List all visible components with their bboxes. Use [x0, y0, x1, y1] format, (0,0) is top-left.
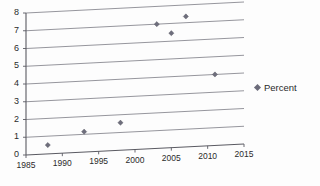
data-point-marker: [183, 14, 188, 19]
axis-tickmarks: [23, 13, 244, 158]
gridline: [26, 20, 244, 31]
legend-label-percent: Percent: [264, 82, 297, 93]
x-axis-tick-label: 1985: [11, 160, 41, 170]
gridline: [26, 91, 244, 102]
y-axis-tick-label: 4: [5, 78, 19, 88]
chart-screenshot: 012345678 1985199019952000200520102015 P…: [0, 0, 320, 186]
data-point-marker: [154, 22, 159, 27]
x-axis-tick-label: 2010: [193, 151, 223, 161]
gridline: [26, 109, 244, 120]
y-axis-tick-label: 2: [5, 114, 19, 124]
data-point-marker: [169, 31, 174, 36]
gridline: [26, 126, 244, 137]
data-points: [45, 14, 217, 148]
scatter-plot: 012345678 1985199019952000200520102015: [0, 0, 320, 186]
x-axis-tick-label: 1995: [84, 156, 114, 166]
data-point-marker: [82, 129, 87, 134]
x-axis-tick-label: 2005: [156, 153, 186, 163]
y-axis-tick-label: 7: [5, 25, 19, 35]
gridline: [26, 73, 244, 84]
x-axis-tick-label: 1990: [47, 158, 77, 168]
y-axis-tick-label: 1: [5, 131, 19, 141]
y-axis-tick-label: 6: [5, 43, 19, 53]
gridline: [26, 55, 244, 66]
legend-marker-diamond-icon: [254, 84, 261, 91]
gridline: [26, 38, 244, 49]
y-axis-tick-label: 0: [5, 149, 19, 159]
y-axis-tick-label: 8: [5, 7, 19, 17]
y-axis-tick-label: 5: [5, 60, 19, 70]
y-axis-tick-label: 3: [5, 96, 19, 106]
x-axis-tick-label: 2000: [120, 155, 150, 165]
gridline: [26, 2, 244, 13]
data-point-marker: [45, 142, 50, 147]
x-axis-tick-label: 2015: [229, 149, 259, 159]
gridlines: [26, 2, 244, 155]
chart-legend: Percent: [255, 82, 297, 93]
data-point-marker: [212, 72, 217, 77]
data-point-marker: [118, 120, 123, 125]
